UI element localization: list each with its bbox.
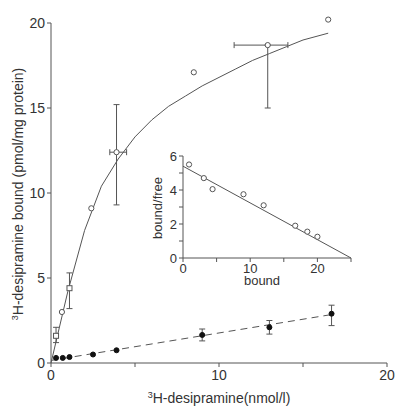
x-tick-label: 0 xyxy=(179,261,186,276)
data-point-open xyxy=(89,206,94,211)
x-tick-label: 20 xyxy=(310,261,324,276)
y-tick-label: 10 xyxy=(29,185,45,201)
main-y-axis-label: 3H-desipramine bound (pmol/mg protein) xyxy=(10,68,26,320)
series-total-binding xyxy=(51,17,331,363)
y-tick-label: 20 xyxy=(29,15,45,31)
y-tick-label: 6 xyxy=(170,149,177,164)
y-tick-label: 2 xyxy=(170,217,177,232)
y-tick-label: 0 xyxy=(170,251,177,266)
chart: 0102005101520 010200246 3H-desipramine(n… xyxy=(0,0,410,411)
inset-x-axis-label: bound xyxy=(244,273,280,288)
fit-line xyxy=(183,166,351,258)
fit-curve xyxy=(51,33,328,363)
data-point-open xyxy=(265,43,270,48)
data-point-square xyxy=(54,333,59,338)
data-point-filled xyxy=(267,325,272,330)
data-point-square xyxy=(67,286,72,291)
scatchard-inset-plot: 010200246 xyxy=(170,149,351,276)
data-point-open xyxy=(210,187,215,192)
data-point-open xyxy=(201,176,206,181)
x-tick-label: 20 xyxy=(379,367,395,383)
data-point-filled xyxy=(200,332,205,337)
data-point-open xyxy=(315,234,320,239)
y-tick-label: 4 xyxy=(170,183,177,198)
data-point-open xyxy=(293,223,298,228)
data-point-open xyxy=(186,162,191,167)
series-nonspecific-binding xyxy=(51,305,335,360)
data-point-open xyxy=(114,150,119,155)
y-tick-label: 5 xyxy=(37,270,45,286)
y-tick-label: 15 xyxy=(29,100,45,116)
data-point-filled xyxy=(67,355,72,360)
data-point-open xyxy=(59,309,64,314)
data-point-filled xyxy=(91,352,96,357)
data-point-filled xyxy=(54,355,59,360)
x-tick-label: 0 xyxy=(47,367,55,383)
data-point-filled xyxy=(60,355,65,360)
inset-y-axis-label: bound/free xyxy=(150,177,165,239)
data-point-open xyxy=(241,192,246,197)
data-point-open xyxy=(326,17,331,22)
x-tick-label: 10 xyxy=(211,367,227,383)
main-x-axis-label: 3H-desipramine(nmol/l) xyxy=(148,390,291,406)
data-point-filled xyxy=(114,348,119,353)
y-tick-label: 0 xyxy=(37,355,45,371)
main-plot: 0102005101520 xyxy=(29,15,395,383)
data-point-filled xyxy=(329,311,334,316)
data-point-open xyxy=(191,70,196,75)
data-point-open xyxy=(305,229,310,234)
data-point-open xyxy=(261,203,266,208)
series-scatchard xyxy=(183,162,351,258)
